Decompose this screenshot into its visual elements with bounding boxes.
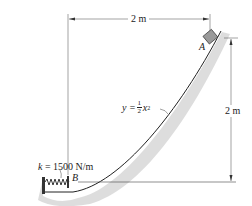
equation-exponent: 2 [147, 105, 150, 111]
equation-denominator: 2 [137, 108, 141, 115]
spring [45, 179, 69, 185]
equation-fraction: 1 2 [137, 100, 142, 115]
spring-plate [67, 176, 69, 188]
vertical-dimension-label: 2 m [224, 105, 241, 117]
point-a-label: A [199, 42, 205, 52]
horizontal-dimension-label: 2 m [128, 14, 149, 24]
spring-wall [42, 177, 45, 194]
equation-numerator: 1 [137, 100, 141, 107]
equation-lhs: y = [122, 103, 136, 113]
equation-leader [160, 109, 168, 114]
spring-k-value: = 1500 N/m [42, 161, 93, 172]
point-b-label: B [72, 173, 78, 183]
curve-equation: y = 1 2 x2 [122, 100, 150, 115]
spring-constant-label: k = 1500 N/m [38, 162, 93, 172]
